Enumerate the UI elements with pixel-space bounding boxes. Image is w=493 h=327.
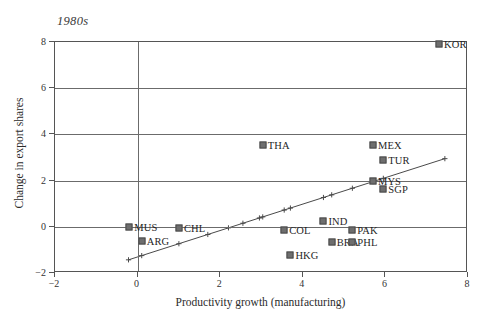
plot-area: KORTHAMEXTURMYSSGPINDMUSCHLPAKCOLARGBRAP… xyxy=(54,41,467,272)
data-point-arg[interactable] xyxy=(138,237,145,244)
data-label-col: COL xyxy=(289,225,310,236)
data-point-mex[interactable] xyxy=(370,141,377,148)
y-axis-ticks: −202468 xyxy=(0,41,54,272)
y-tick-label-0: 0 xyxy=(41,220,46,231)
fit-marker-plus xyxy=(257,215,262,220)
data-point-phl[interactable] xyxy=(349,238,356,245)
data-point-kor[interactable] xyxy=(436,41,443,48)
fit-marker-plus xyxy=(282,207,287,212)
x-tick-mark-4 xyxy=(302,272,303,277)
data-label-hkg: HKG xyxy=(295,249,318,260)
y-tick-label--2: −2 xyxy=(35,267,46,278)
data-point-ind[interactable] xyxy=(320,218,327,225)
x-tick-label-6: 6 xyxy=(382,278,387,289)
x-tick-mark--2 xyxy=(54,272,55,277)
gridline-y-4 xyxy=(55,134,466,135)
data-label-kor: KOR xyxy=(444,39,466,50)
x-axis-ticks: −202468 xyxy=(54,272,467,292)
chart-figure: 1980s Change in export shares −202468 KO… xyxy=(0,0,493,327)
y-tick-label-2: 2 xyxy=(41,174,46,185)
data-point-mus[interactable] xyxy=(126,223,133,230)
fit-marker-plus xyxy=(321,195,326,200)
data-point-mys[interactable] xyxy=(370,177,377,184)
data-label-sgp: SGP xyxy=(388,183,408,194)
gridline-y-2 xyxy=(55,181,466,182)
data-point-bra[interactable] xyxy=(328,238,335,245)
data-point-sgp[interactable] xyxy=(380,185,387,192)
data-label-chl: CHL xyxy=(184,222,205,233)
x-tick-mark-0 xyxy=(137,272,138,277)
data-label-pak: PAK xyxy=(357,225,377,236)
gridline-y-6 xyxy=(55,88,466,89)
data-point-tur[interactable] xyxy=(380,156,387,163)
x-tick-mark-8 xyxy=(467,272,468,277)
data-point-col[interactable] xyxy=(281,227,288,234)
data-point-pak[interactable] xyxy=(349,227,356,234)
fit-marker-plus xyxy=(350,186,355,191)
data-point-tha[interactable] xyxy=(259,141,266,148)
data-label-ind: IND xyxy=(328,216,347,227)
x-axis-label: Productivity growth (manufacturing) xyxy=(54,296,467,308)
data-point-hkg[interactable] xyxy=(287,251,294,258)
data-label-phl: PHL xyxy=(357,236,377,247)
fit-marker-plus xyxy=(205,232,210,237)
fit-marker-plus xyxy=(288,205,293,210)
gridline-y-0 xyxy=(55,227,466,228)
fit-marker-plus xyxy=(126,257,131,262)
x-tick-label--2: −2 xyxy=(49,278,60,289)
fit-marker-plus xyxy=(329,192,334,197)
x-tick-mark-6 xyxy=(384,272,385,277)
data-label-mex: MEX xyxy=(378,139,402,150)
y-tick-label-6: 6 xyxy=(41,82,46,93)
fit-marker-plus xyxy=(240,221,245,226)
data-label-tur: TUR xyxy=(388,154,409,165)
x-tick-label-0: 0 xyxy=(134,278,139,289)
data-label-tha: THA xyxy=(268,139,290,150)
data-label-arg: ARG xyxy=(147,235,169,246)
x-tick-label-2: 2 xyxy=(217,278,222,289)
data-point-chl[interactable] xyxy=(175,224,182,231)
fit-marker-plus xyxy=(139,253,144,258)
data-label-mus: MUS xyxy=(134,221,157,232)
chart-title: 1980s xyxy=(57,14,88,29)
fit-marker-plus xyxy=(260,214,265,219)
x-tick-label-4: 4 xyxy=(299,278,304,289)
y-tick-label-4: 4 xyxy=(41,128,46,139)
x-tick-mark-2 xyxy=(219,272,220,277)
x-tick-label-8: 8 xyxy=(465,278,470,289)
y-tick-label-8: 8 xyxy=(41,36,46,47)
fit-marker-plus xyxy=(442,156,447,161)
fit-marker-plus xyxy=(176,241,181,246)
regression-line xyxy=(129,159,445,260)
